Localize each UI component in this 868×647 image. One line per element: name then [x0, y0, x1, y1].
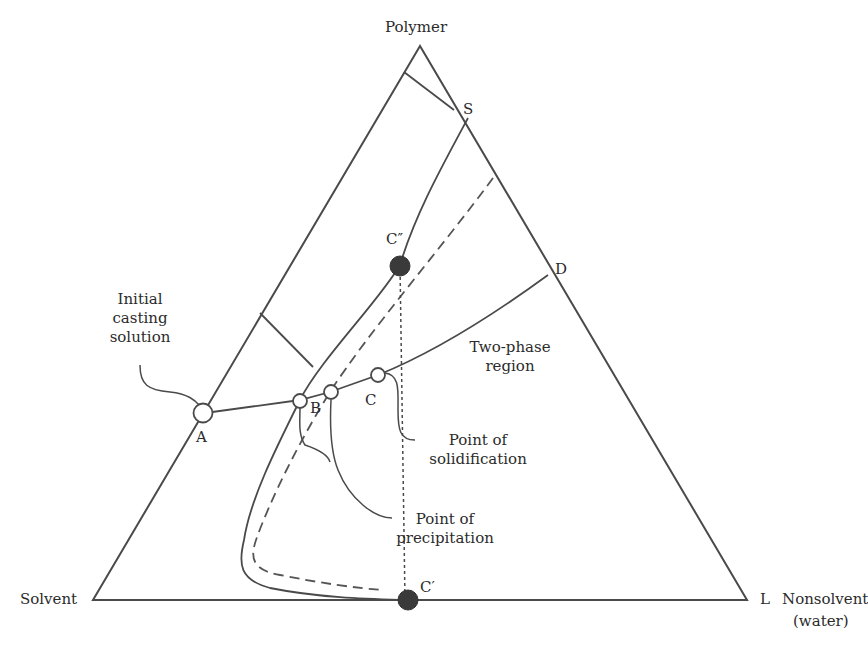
point-label-s: S	[463, 100, 473, 119]
annotation-initial-casting-solution: Initial casting solution	[95, 290, 185, 347]
annotation-two-phase-region: Two-phase region	[460, 338, 560, 376]
vertex-label-polymer: Polymer	[385, 18, 447, 37]
vertex-label-solvent: Solvent	[20, 590, 77, 609]
annotation-line: Initial	[95, 290, 185, 309]
annotation-point-of-solidification: Point of solidification	[418, 431, 538, 469]
marker-c-double-prime	[390, 256, 410, 276]
annotation-line: region	[460, 357, 560, 376]
point-label-c: C	[365, 391, 376, 410]
annotation-line: solution	[95, 328, 185, 347]
leader-solidification	[385, 373, 415, 440]
point-label-d: D	[555, 260, 567, 279]
marker-a	[194, 404, 213, 423]
leader-initial-casting	[140, 365, 200, 406]
annotation-point-of-precipitation: Point of precipitation	[390, 510, 500, 548]
point-label-a: A	[196, 428, 207, 447]
vertex-label-water: (water)	[793, 612, 849, 631]
marker-b	[293, 394, 307, 408]
point-label-c-double-prime: C″	[386, 230, 403, 249]
marker-c	[371, 368, 385, 382]
point-label-b: B	[310, 399, 321, 418]
annotation-line: casting	[95, 309, 185, 328]
vertex-label-nonsolvent: Nonsolvent	[782, 590, 868, 609]
marker-c-prime	[398, 590, 418, 610]
annotation-line: Two-phase	[460, 338, 560, 357]
point-label-l: L	[760, 590, 770, 609]
annotation-line: Point of	[418, 431, 538, 450]
annotation-line: precipitation	[390, 529, 500, 548]
point-label-c-prime: C′	[420, 578, 435, 597]
tie-line-left	[260, 313, 313, 367]
marker-b2	[324, 385, 338, 399]
leader-precipitation	[331, 400, 392, 518]
annotation-line: solidification	[418, 450, 538, 469]
annotation-line: Point of	[390, 510, 500, 529]
